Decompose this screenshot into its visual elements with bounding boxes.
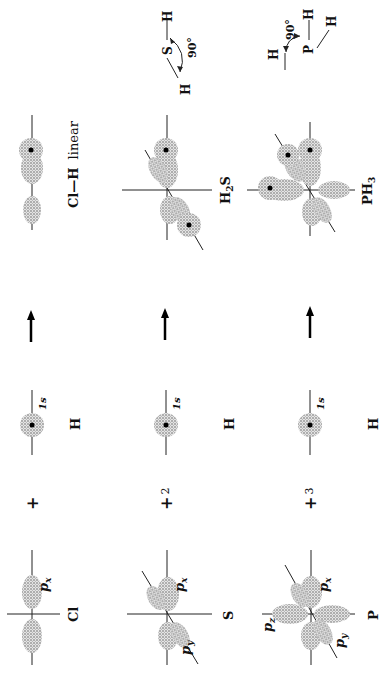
h2s-product-orbital [122, 115, 212, 250]
row-ph3: px py pz P +3 1s H [247, 9, 381, 665]
h2s-product-label: H2S [218, 176, 235, 204]
h-1s-orbital: 1s [20, 390, 48, 455]
svg-text:90°: 90° [284, 19, 297, 40]
cl-label: Cl [66, 607, 81, 622]
cl-px-orbital: px [7, 550, 60, 665]
svg-text:1s: 1s [37, 397, 48, 410]
svg-text:1s: 1s [315, 397, 326, 410]
svg-text:H: H [325, 16, 339, 27]
plus-sign: +3 [301, 488, 320, 510]
svg-text:px: px [172, 577, 189, 592]
s-p-orbitals: px py [127, 550, 212, 665]
svg-text:py: py [332, 633, 349, 648]
svg-text:H: H [179, 84, 193, 95]
plus-sign: +2 [157, 488, 176, 510]
svg-text:S: S [161, 46, 175, 55]
ph3-product-label: PH3 [360, 177, 377, 205]
h2s-geometry: H S H 90° [161, 11, 199, 95]
h-label: H [366, 418, 381, 430]
orbital-overlap-diagram: px Cl + 1s H Cl—Hlinear [0, 0, 386, 684]
svg-text:H: H [161, 11, 175, 22]
row-h2s: px py S +2 1s H H2S [122, 11, 237, 665]
hcl-product-orbital [19, 115, 43, 230]
h-1s-orbital: 1s [154, 390, 182, 455]
row-hcl: px Cl + 1s H Cl—Hlinear [7, 90, 83, 665]
h-label: H [68, 418, 83, 430]
svg-text:pz: pz [260, 617, 277, 632]
svg-text:H: H [302, 9, 316, 20]
p-label: P [366, 610, 381, 620]
plus-sign: + [23, 497, 42, 510]
svg-text:H: H [267, 49, 281, 60]
hcl-product-label: Cl—Hlinear [66, 120, 81, 208]
h-label: H [222, 418, 237, 430]
svg-text:P: P [302, 45, 316, 54]
s-label: S [221, 611, 236, 620]
h-1s-orbital: 1s [298, 390, 326, 455]
ph3-geometry: H P H H 90° [267, 9, 339, 70]
svg-text:90°: 90° [186, 37, 199, 58]
ph3-product-orbital [247, 122, 355, 236]
p-p-orbitals: px py pz [260, 550, 355, 665]
svg-text:1s: 1s [171, 397, 182, 410]
svg-text:px: px [316, 577, 333, 592]
